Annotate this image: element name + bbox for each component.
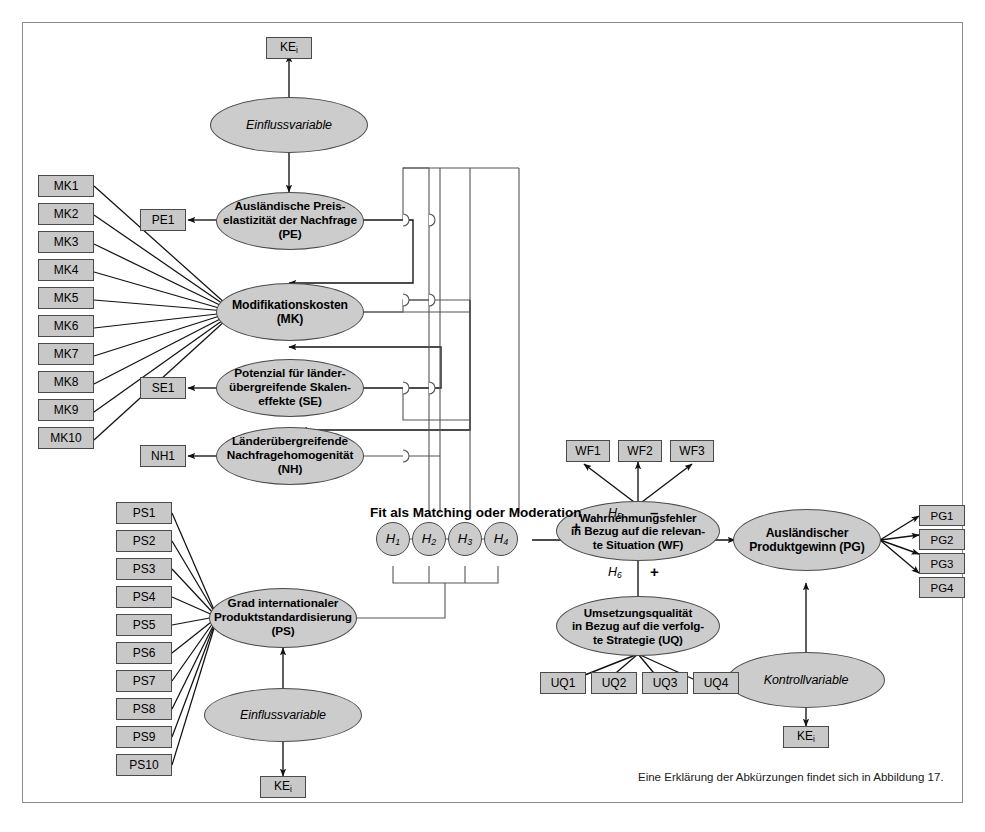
indicator-mk9: MK9: [38, 399, 94, 421]
hypothesis-label-h6: H6: [608, 565, 622, 580]
indicator-wf3: WF3: [670, 440, 714, 462]
indicator-mk5: MK5: [38, 287, 94, 309]
indicator-wf2: WF2: [618, 440, 662, 462]
indicator-mk2: MK2: [38, 203, 94, 225]
indicator-ps2: PS2: [116, 530, 172, 552]
indicator-uq1: UQ1: [540, 672, 586, 694]
indicator-label: KEi: [797, 729, 815, 744]
path-sign-h5: –: [650, 504, 658, 521]
indicator-ps6: PS6: [116, 642, 172, 664]
indicator-wf1: WF1: [566, 440, 610, 462]
indicator-ps4: PS4: [116, 586, 172, 608]
indicator-mk6: MK6: [38, 315, 94, 337]
indicator-ke-bottom-left: KEi: [260, 776, 306, 798]
indicator-label: KEi: [274, 779, 292, 794]
indicator-se1: SE1: [140, 377, 186, 399]
indicator-mk3: MK3: [38, 231, 94, 253]
indicator-ps9: PS9: [116, 726, 172, 748]
indicator-pg4: PG4: [919, 577, 965, 598]
fit-label: Fit als Matching oder Moderation: [370, 505, 582, 520]
indicator-ps10: PS10: [116, 754, 172, 776]
indicator-ps5: PS5: [116, 614, 172, 636]
indicator-uq2: UQ2: [591, 672, 637, 694]
indicator-mk10: MK10: [38, 427, 94, 449]
indicator-uq3: UQ3: [642, 672, 688, 694]
indicator-mk1: MK1: [38, 175, 94, 197]
indicator-label: KEi: [280, 40, 298, 55]
indicator-pg1: PG1: [919, 505, 965, 526]
path-sign-h6: +: [650, 563, 659, 580]
indicator-pg3: PG3: [919, 553, 965, 574]
indicator-ke-bottom-right: KEi: [783, 726, 829, 748]
indicator-ps8: PS8: [116, 698, 172, 720]
indicator-ke-top: KEi: [266, 37, 312, 59]
hypothesis-label-h5: H5: [608, 506, 622, 521]
figure-canvas: Einflussvariable Ausländische Preis- ela…: [0, 0, 985, 832]
indicator-pg2: PG2: [919, 529, 965, 550]
indicator-mk4: MK4: [38, 259, 94, 281]
indicator-mk8: MK8: [38, 371, 94, 393]
figure-caption: Eine Erklärung der Abkürzungen findet si…: [638, 771, 944, 783]
indicator-ps7: PS7: [116, 670, 172, 692]
indicator-pe1: PE1: [140, 209, 186, 231]
path-sign-fit: +: [572, 518, 581, 535]
indicator-ps3: PS3: [116, 558, 172, 580]
indicator-ps1: PS1: [116, 502, 172, 524]
indicator-uq4: UQ4: [693, 672, 739, 694]
indicator-mk7: MK7: [38, 343, 94, 365]
indicator-nh1: NH1: [140, 445, 186, 467]
